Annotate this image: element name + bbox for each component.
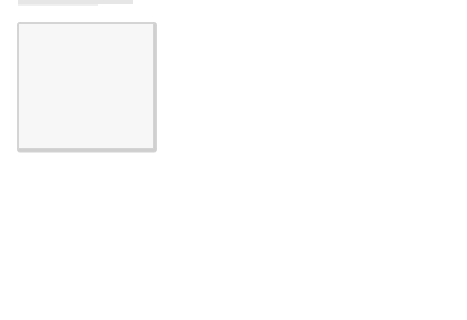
colour-panel-final — [18, 23, 154, 149]
caption-line — [18, 4, 98, 6]
